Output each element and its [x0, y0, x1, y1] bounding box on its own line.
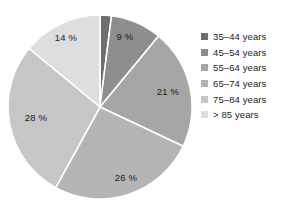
legend-item: > 85 years: [199, 107, 285, 123]
legend-swatch-icon: [201, 49, 208, 56]
legend-item: 35–44 years: [199, 29, 285, 45]
legend-item-label: 65–74 years: [213, 78, 266, 89]
legend-item: 65–74 years: [199, 76, 285, 92]
legend-item: 55–64 years: [199, 60, 285, 76]
legend-swatch-icon: [201, 64, 208, 71]
slice-value-label-75-84: 28 %: [25, 112, 48, 123]
legend-item-label: 45–54 years: [213, 47, 266, 58]
legend-item: 75–84 years: [199, 91, 285, 107]
legend-swatch-icon: [201, 96, 208, 103]
legend-item-label: > 85 years: [213, 109, 259, 120]
slice-value-label-65-74: 26 %: [115, 172, 138, 183]
pie-svg: 9 % 21 % 26 % 28 % 14 %: [0, 0, 200, 212]
slice-value-label-over-85: 14 %: [55, 32, 78, 43]
pie-slice-group: [8, 15, 192, 199]
legend-swatch-icon: [201, 80, 208, 87]
legend-item-label: 75–84 years: [213, 94, 266, 105]
slice-value-label-45-54: 9 %: [117, 31, 134, 42]
legend-item-label: 55–64 years: [213, 62, 266, 73]
slice-value-label-55-64: 21 %: [157, 86, 180, 97]
legend-item: 45–54 years: [199, 45, 285, 61]
pie-plot-area: 9 % 21 % 26 % 28 % 14 %: [0, 0, 200, 212]
legend-item-label: 35–44 years: [213, 31, 266, 42]
legend-swatch-icon: [201, 111, 208, 118]
legend-swatch-icon: [201, 33, 208, 40]
pie-chart-figure: 9 % 21 % 26 % 28 % 14 % 35–44 years45–54…: [0, 0, 285, 212]
chart-legend: 35–44 years45–54 years55–64 years65–74 y…: [199, 29, 285, 123]
